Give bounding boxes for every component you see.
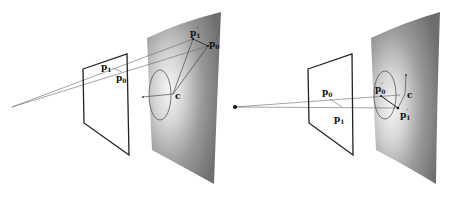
left-panel: p1 p0 p1′ p0′ c <box>12 12 221 184</box>
right-surface <box>371 12 440 184</box>
left-label-c: c <box>175 91 181 101</box>
left-p1-p0-segment <box>113 68 122 72</box>
left-p1-prime-dot <box>192 38 194 40</box>
right-p1-prime-dot <box>397 107 399 109</box>
right-camera-center <box>233 105 237 109</box>
right-c-up-tip <box>405 74 407 76</box>
left-surface <box>147 12 221 184</box>
right-panel: p0 p1 p0′ p1′ c <box>233 12 440 184</box>
left-c-arrow-tip <box>142 96 144 98</box>
right-image-plane <box>308 54 353 155</box>
right-p0-prime-dot <box>380 95 382 97</box>
left-label-p1: p1 <box>101 62 111 73</box>
right-label-p0: p0 <box>322 87 332 98</box>
right-ray-1 <box>235 107 398 108</box>
right-label-c: c <box>407 90 413 100</box>
diagram-canvas: p1 p0 p1′ p0′ c p0 p1 p0′ p1′ c <box>0 0 451 197</box>
right-p0-p1-segment <box>330 99 342 107</box>
left-label-p0: p0 <box>116 73 126 84</box>
right-label-p1: p1 <box>334 114 344 125</box>
